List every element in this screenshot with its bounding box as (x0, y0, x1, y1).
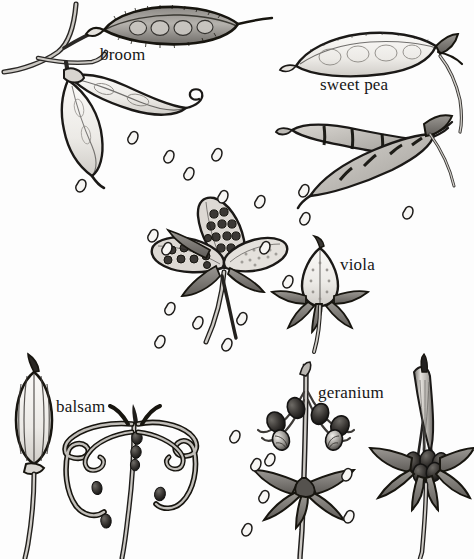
label-balsam: balsam (56, 398, 105, 415)
label-broom: broom (100, 46, 145, 63)
label-geranium: geranium (318, 384, 384, 401)
label-sweet-pea: sweet pea (320, 76, 388, 93)
botanical-figure: broom sweet pea viola balsam geranium (0, 0, 474, 559)
illustration-canvas (0, 0, 474, 559)
label-viola: viola (340, 256, 375, 273)
